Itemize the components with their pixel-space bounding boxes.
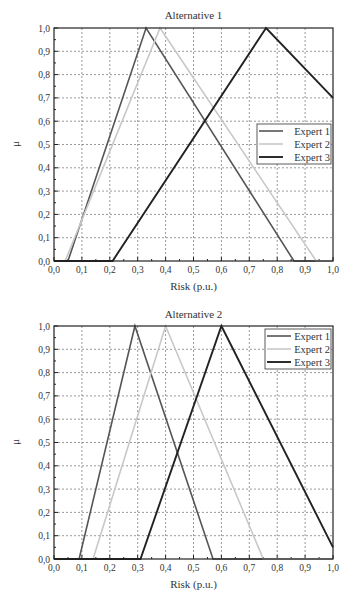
y-tick-label: 0,8 [38, 70, 50, 80]
x-tick-label: 0,7 [243, 563, 255, 573]
legend-label: Expert 1 [294, 126, 330, 137]
y-tick-label: 0,5 [38, 140, 50, 150]
x-tick-label: 0,2 [104, 563, 116, 573]
y-tick-label: 0,9 [38, 345, 50, 355]
y-tick-label: 0,6 [38, 415, 50, 425]
x-tick-label: 0,7 [243, 265, 255, 275]
y-tick-label: 0,5 [38, 438, 50, 448]
y-tick-label: 0,2 [38, 210, 50, 220]
x-tick-label: 0,4 [160, 265, 172, 275]
x-tick-label: 1,0 [327, 265, 339, 275]
y-tick-label: 0,4 [38, 461, 50, 471]
legend-label: Expert 2 [294, 139, 330, 150]
x-tick-label: 0,1 [76, 563, 88, 573]
y-tick-label: 0,1 [38, 233, 50, 243]
y-tick-label: 0,3 [38, 187, 50, 197]
y-tick-label: 0,3 [38, 485, 50, 495]
y-tick-label: 0,8 [38, 368, 50, 378]
legend-label: Expert 3 [294, 152, 330, 163]
x-tick-label: 0,6 [215, 265, 227, 275]
y-tick-label: 0,7 [38, 93, 50, 103]
x-tick-label: 0,5 [188, 563, 200, 573]
y-tick-label: 1,0 [38, 24, 50, 34]
chart-1-plot: 0,00,10,20,30,40,50,60,70,80,91,00,00,10… [38, 24, 339, 276]
x-tick-label: 0,5 [188, 265, 200, 275]
y-tick-label: 0,0 [38, 555, 50, 565]
x-tick-label: 0,2 [104, 265, 116, 275]
legend: Expert 1Expert 2Expert 3 [265, 329, 331, 369]
x-tick-label: 0,9 [299, 265, 311, 275]
x-tick-label: 0,4 [160, 563, 172, 573]
chart-2-plot: 0,00,10,20,30,40,50,60,70,80,91,00,00,10… [38, 322, 339, 574]
legend-label: Expert 3 [294, 357, 330, 368]
y-tick-label: 1,0 [38, 322, 50, 332]
y-tick-label: 0,7 [38, 391, 50, 401]
y-tick-label: 0,6 [38, 117, 50, 127]
y-tick-label: 0,9 [38, 47, 50, 57]
y-tick-label: 0,1 [38, 531, 50, 541]
y-tick-label: 0,0 [38, 257, 50, 267]
x-tick-label: 0,3 [132, 563, 144, 573]
x-tick-label: 0,0 [48, 265, 60, 275]
plot-area: 0,00,10,20,30,40,50,60,70,80,91,00,00,10… [0, 0, 354, 608]
x-tick-label: 0,8 [271, 265, 283, 275]
x-tick-label: 0,8 [271, 563, 283, 573]
legend: Expert 1Expert 2Expert 3 [257, 124, 331, 164]
y-tick-label: 0,2 [38, 508, 50, 518]
y-tick-label: 0,4 [38, 163, 50, 173]
x-tick-label: 0,3 [132, 265, 144, 275]
x-tick-label: 0,0 [48, 563, 60, 573]
x-tick-label: 0,6 [215, 563, 227, 573]
legend-label: Expert 2 [294, 344, 330, 355]
x-tick-label: 0,1 [76, 265, 88, 275]
x-tick-label: 0,9 [299, 563, 311, 573]
x-tick-label: 1,0 [327, 563, 339, 573]
legend-label: Expert 1 [294, 331, 330, 342]
